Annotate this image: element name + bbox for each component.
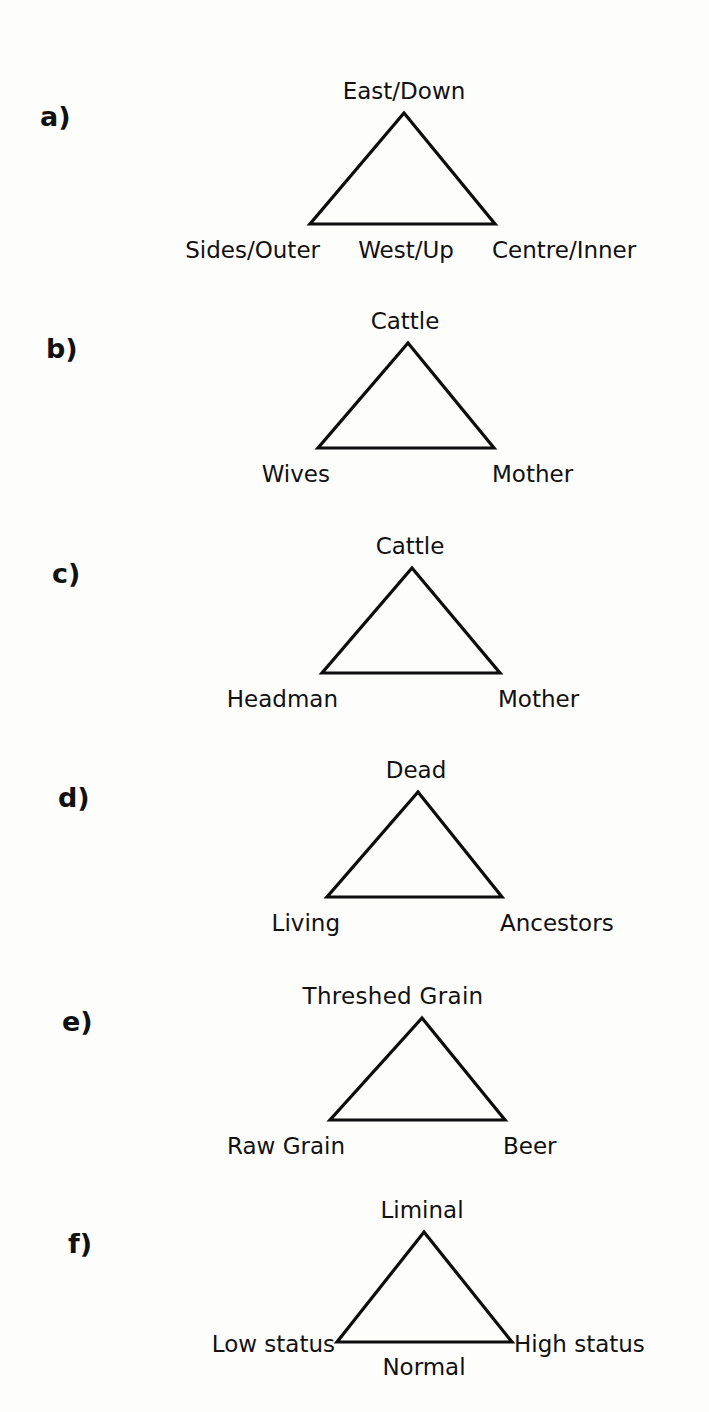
panel-f-apex-label: Liminal (380, 1199, 463, 1222)
panel-f-right-label: High status (514, 1333, 645, 1356)
panel-f-triangle (0, 0, 709, 1412)
panel-f-left-label: Low status (212, 1333, 335, 1356)
panel-f-base-center-label: Normal (382, 1356, 465, 1379)
triangular-models-figure: a) East/Down Sides/Outer West/Up Centre/… (0, 0, 709, 1412)
